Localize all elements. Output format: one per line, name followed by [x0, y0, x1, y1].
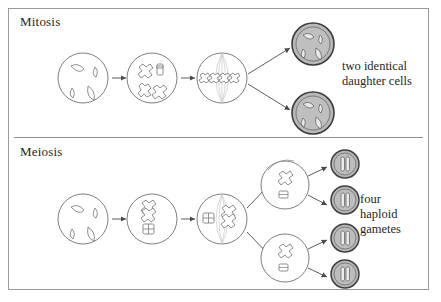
arrow-gamete-4 — [308, 268, 327, 277]
arrow-mitosis-branch-bottom — [248, 84, 290, 110]
meiosis-ii-cell-bottom — [261, 234, 309, 282]
tetrad-pair-lower — [143, 224, 154, 234]
gamete-4 — [331, 260, 359, 288]
meiosis-interphase-cell — [58, 194, 108, 244]
tetrad-pair-upper — [141, 200, 156, 222]
meiosis-ii-cell-top — [261, 160, 309, 209]
gamete-1 — [331, 150, 359, 178]
mitosis-metaphase-cell — [197, 53, 247, 103]
diagram-artwork — [0, 0, 441, 302]
mitosis-prophase-cell — [127, 53, 177, 103]
gamete-3 — [331, 224, 359, 252]
arrow-gamete-3 — [308, 240, 327, 249]
daughter-cell-bottom — [292, 92, 334, 134]
mitosis-interphase-cell — [58, 53, 108, 103]
meiosis-metaphase-i-cell — [197, 194, 247, 244]
arrow-gamete-2 — [308, 195, 327, 205]
gamete-2 — [331, 186, 359, 214]
daughter-cell-top — [292, 23, 334, 65]
arrow-mitosis-branch-top — [248, 48, 290, 74]
arrow-gamete-1 — [308, 167, 327, 176]
mitosis-meiosis-diagram: Mitosis Meiosis two identical daughter c… — [0, 0, 441, 302]
meiosis-prophase-i-cell — [127, 194, 177, 244]
